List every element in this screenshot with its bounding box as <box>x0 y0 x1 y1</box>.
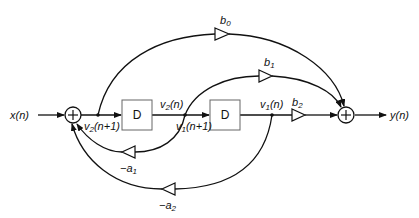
v1-n1-label: v1(n+1) <box>176 120 212 134</box>
v2-n1-label: v2(n+1) <box>84 120 120 134</box>
b2-label: b2 <box>292 96 303 110</box>
b1-gain-triangle <box>259 70 272 82</box>
output-label: y(n) <box>389 109 409 121</box>
a2-label: −a2 <box>159 199 177 213</box>
b0-gain-triangle <box>215 28 229 40</box>
a1-label: −a1 <box>120 162 137 176</box>
input-adder <box>65 107 81 123</box>
b0-label: b0 <box>220 14 231 28</box>
v1-n-label: v1(n) <box>260 98 284 112</box>
delay-1-label: D <box>133 108 142 122</box>
a1-gain-triangle <box>122 146 135 158</box>
input-label: x(n) <box>9 109 29 121</box>
output-adder <box>338 107 354 123</box>
b0-path <box>98 34 215 115</box>
b2-gain-triangle <box>292 109 305 121</box>
a2-gain-triangle <box>162 183 175 195</box>
b0-path-out <box>229 34 344 106</box>
v2-n-label: v2(n) <box>160 98 184 112</box>
block-diagram: D D x(n) y(n) v2(n+1) v2(n) v1(n+1) v1(n… <box>0 0 419 218</box>
b1-label: b1 <box>264 56 275 70</box>
delay-2-label: D <box>221 108 230 122</box>
